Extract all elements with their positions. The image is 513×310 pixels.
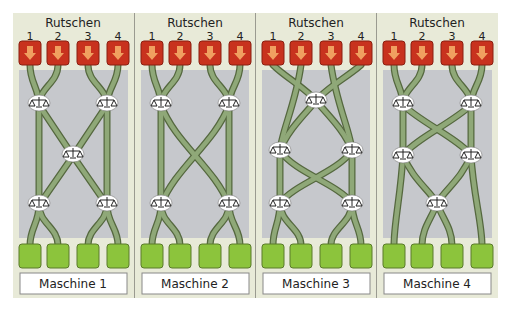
balance-icon [392,147,414,163]
output-bin [441,244,463,268]
balance-icon [392,95,414,111]
balance-icon [96,95,118,111]
output-bin [411,244,433,268]
output-bin [290,244,312,268]
output-bin [141,244,163,268]
machine-panel-2: Rutschen 1 [135,13,255,298]
machine-label: Maschine 3 [282,277,350,291]
output-bin [19,244,41,268]
output-bin [199,244,221,268]
machine-label: Maschine 4 [403,277,471,291]
panel-title: Rutschen [167,16,223,30]
balance-icon [150,95,172,111]
balance-icon [269,142,291,158]
output-bin [471,244,493,268]
balance-icon [28,195,50,211]
machine-label: Maschine 2 [161,277,229,291]
balance-icon [62,146,84,162]
balance-icon [426,195,448,211]
balance-icon [460,95,482,111]
balance-icon [218,195,240,211]
output-bin [320,244,342,268]
balance-icon [305,92,327,108]
balance-icon [341,195,363,211]
machine-panel-4: Rutschen [377,13,498,298]
sorting-machines-diagram: Rutschen [0,0,513,310]
output-bin [169,244,191,268]
balance-icon [150,195,172,211]
balance-icon [460,147,482,163]
output-bin [350,244,372,268]
machine-panel-3: Rutschen [256,13,376,298]
balance-icon [269,195,291,211]
machine-panel-1: Rutschen [13,13,134,298]
balance-icon [96,195,118,211]
output-bin [229,244,251,268]
panel-title: Rutschen [45,16,101,30]
output-bin [77,244,99,268]
output-bin [47,244,69,268]
output-bin [107,244,129,268]
panel-title: Rutschen [409,16,465,30]
balance-icon [218,95,240,111]
balance-icon [341,142,363,158]
panel-title: Rutschen [288,16,344,30]
output-bin [262,244,284,268]
balance-icon [28,95,50,111]
machine-label: Maschine 1 [39,277,107,291]
output-bin [383,244,405,268]
